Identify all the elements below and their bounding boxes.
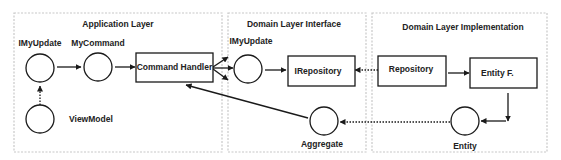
layer-title: Application Layer (82, 19, 154, 29)
architecture-diagram: Application Layer Domain Layer Interface… (0, 0, 561, 160)
node-irepository: IRepository (288, 56, 355, 86)
node-aggregate: Aggregate (301, 107, 343, 149)
node-label: IMyUpdate (230, 36, 273, 46)
node-imyupdate-app: IMyUpdate (19, 38, 62, 82)
entity-circle (451, 107, 479, 135)
node-label: IMyUpdate (19, 38, 62, 48)
aggregate-circle (310, 107, 338, 135)
viewmodel-circle (26, 105, 54, 133)
node-label: IRepository (295, 66, 342, 76)
node-viewmodel: ViewModel (26, 105, 113, 133)
edge-commandhandler-fan-up (213, 57, 228, 67)
node-mycommand: MyCommand (71, 38, 124, 81)
imyupdate-circle (26, 54, 54, 82)
mycommand-circle (84, 53, 112, 81)
node-label: ViewModel (69, 114, 113, 124)
layer-title: Domain Layer Interface (247, 19, 341, 29)
edge-aggregate-commandhandler (186, 85, 308, 118)
node-entity-factory: Entity F. (470, 58, 537, 88)
node-imyupdate-domain: IMyUpdate (230, 36, 273, 83)
node-repository: Repository (378, 56, 446, 86)
edge-commandhandler-fan-down (213, 69, 228, 80)
node-label: Command Handler (137, 62, 213, 72)
node-label: Entity (453, 141, 477, 151)
node-entity: Entity (451, 107, 479, 151)
node-command-handler: Command Handler (136, 53, 213, 82)
layer-title: Domain Layer Implementation (402, 22, 523, 32)
imyupdate-circle (234, 55, 262, 83)
node-label: Entity F. (481, 68, 514, 78)
node-label: Aggregate (301, 139, 343, 149)
node-label: MyCommand (71, 38, 124, 48)
node-label: Repository (389, 64, 434, 74)
